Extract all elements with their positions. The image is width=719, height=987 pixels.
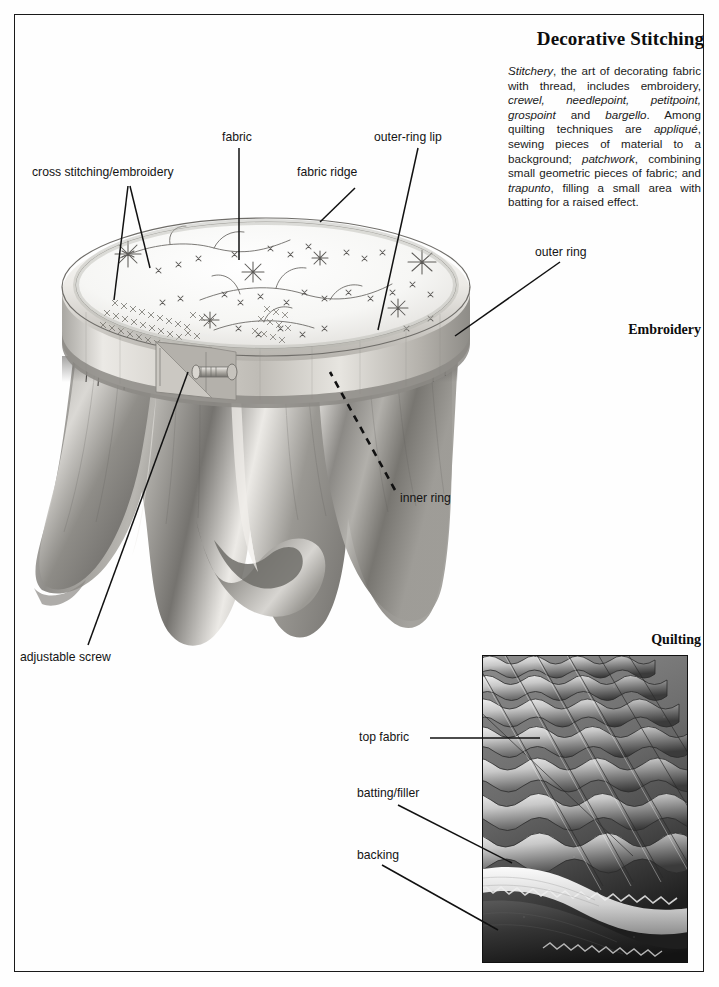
label-top-fabric: top fabric	[359, 730, 409, 744]
label-backing: backing	[357, 848, 399, 862]
label-fabric: fabric	[222, 130, 252, 144]
label-outer-ring: outer ring	[535, 245, 587, 259]
label-fabric-ridge: fabric ridge	[297, 165, 357, 179]
page-title: Decorative Stitching	[460, 28, 704, 50]
section-heading-quilting: Quilting	[560, 632, 701, 648]
page-root: Decorative Stitching Stitchery, the art …	[0, 0, 719, 987]
section-heading-embroidery: Embroidery	[500, 322, 701, 338]
label-batting-filler: batting/filler	[357, 786, 419, 800]
intro-paragraph: Stitchery, the art of decorating fabric …	[508, 64, 701, 210]
label-inner-ring: inner ring	[400, 491, 451, 505]
label-adjustable-screw: adjustable screw	[20, 650, 111, 664]
label-cross-stitching: cross stitching/embroidery	[32, 165, 174, 179]
label-outer-ring-lip: outer-ring lip	[374, 130, 442, 144]
